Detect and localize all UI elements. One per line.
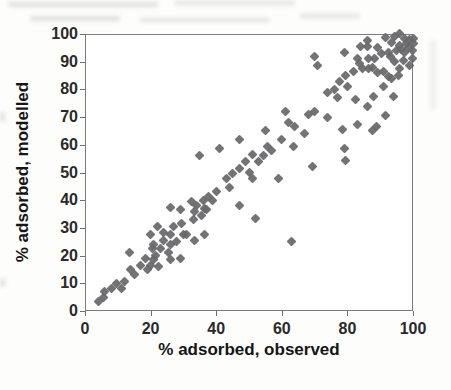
x-tick-label: 20 — [130, 320, 172, 338]
y-tick-mark — [80, 283, 85, 284]
x-tick-label: 40 — [195, 320, 237, 338]
x-tick-mark — [347, 311, 348, 316]
y-tick-label: 60 — [36, 136, 78, 154]
y-tick-label: 90 — [36, 53, 78, 71]
y-axis-title: % adsorbed, modelled — [13, 82, 33, 262]
y-tick-label: 0 — [36, 302, 78, 320]
x-tick-label: 100 — [392, 320, 434, 338]
y-tick-label: 40 — [36, 191, 78, 209]
y-tick-label: 10 — [36, 274, 78, 292]
scan-artifact — [300, 14, 360, 18]
x-tick-mark — [85, 311, 86, 316]
scatter-chart-figure: 0102030405060708090100020406080100 % ads… — [0, 0, 451, 390]
x-tick-label: 60 — [261, 320, 303, 338]
y-tick-label: 30 — [36, 219, 78, 237]
y-tick-label: 50 — [36, 164, 78, 182]
y-tick-mark — [80, 117, 85, 118]
y-tick-mark — [80, 200, 85, 201]
scan-artifact — [430, 40, 436, 110]
y-tick-label: 100 — [36, 25, 78, 43]
scan-artifact — [140, 18, 270, 22]
x-tick-label: 0 — [64, 320, 106, 338]
y-tick-mark — [80, 228, 85, 229]
scan-artifact — [8, 2, 158, 7]
x-axis-title: % adsorbed, observed — [158, 340, 339, 360]
y-tick-label: 20 — [36, 247, 78, 265]
x-tick-mark — [282, 311, 283, 316]
y-tick-mark — [80, 145, 85, 146]
x-tick-mark — [413, 311, 414, 316]
scan-artifact — [0, 278, 5, 287]
scan-artifact — [175, 1, 295, 5]
y-tick-mark — [80, 173, 85, 174]
y-tick-label: 80 — [36, 80, 78, 98]
y-tick-mark — [80, 62, 85, 63]
x-tick-mark — [216, 311, 217, 316]
scan-artifact — [0, 112, 5, 122]
y-tick-mark — [80, 34, 85, 35]
y-tick-mark — [80, 256, 85, 257]
x-tick-mark — [151, 311, 152, 316]
x-tick-label: 80 — [326, 320, 368, 338]
scan-artifact — [30, 16, 120, 21]
y-tick-mark — [80, 89, 85, 90]
y-tick-label: 70 — [36, 108, 78, 126]
